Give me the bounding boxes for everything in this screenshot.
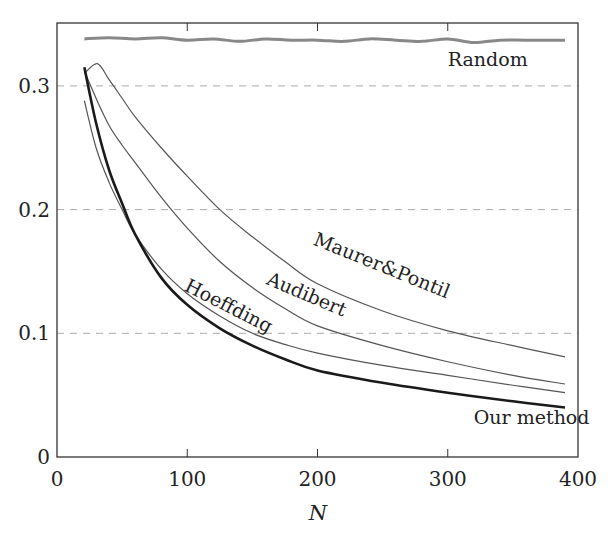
curve-labels: RandomMaurer&PontilAudibertHoeffdingOur …	[182, 48, 590, 427]
curve-label: Hoeffding	[182, 274, 277, 337]
curve-label: Random	[448, 48, 528, 70]
x-tick-label: 300	[429, 467, 467, 491]
x-tick-label: 0	[51, 467, 64, 491]
y-tick-label: 0.2	[18, 198, 50, 222]
series-random	[84, 38, 565, 43]
y-axis: 00.10.20.3	[18, 74, 50, 469]
curve-label: Audibert	[263, 267, 350, 321]
x-tick-label: 100	[168, 467, 206, 491]
x-tick-label: 400	[559, 467, 597, 491]
x-tick-label: 200	[298, 467, 336, 491]
y-tick-label: 0.1	[18, 321, 50, 345]
y-tick-label: 0	[37, 445, 50, 469]
curve-label: Our method	[474, 406, 590, 428]
line-chart: 0100200300400 00.10.20.3 RandomMaurer&Po…	[0, 0, 608, 539]
series-lines	[84, 38, 565, 408]
x-axis-label: N	[308, 501, 328, 525]
y-tick-label: 0.3	[18, 74, 50, 98]
series-audibert	[84, 71, 565, 384]
